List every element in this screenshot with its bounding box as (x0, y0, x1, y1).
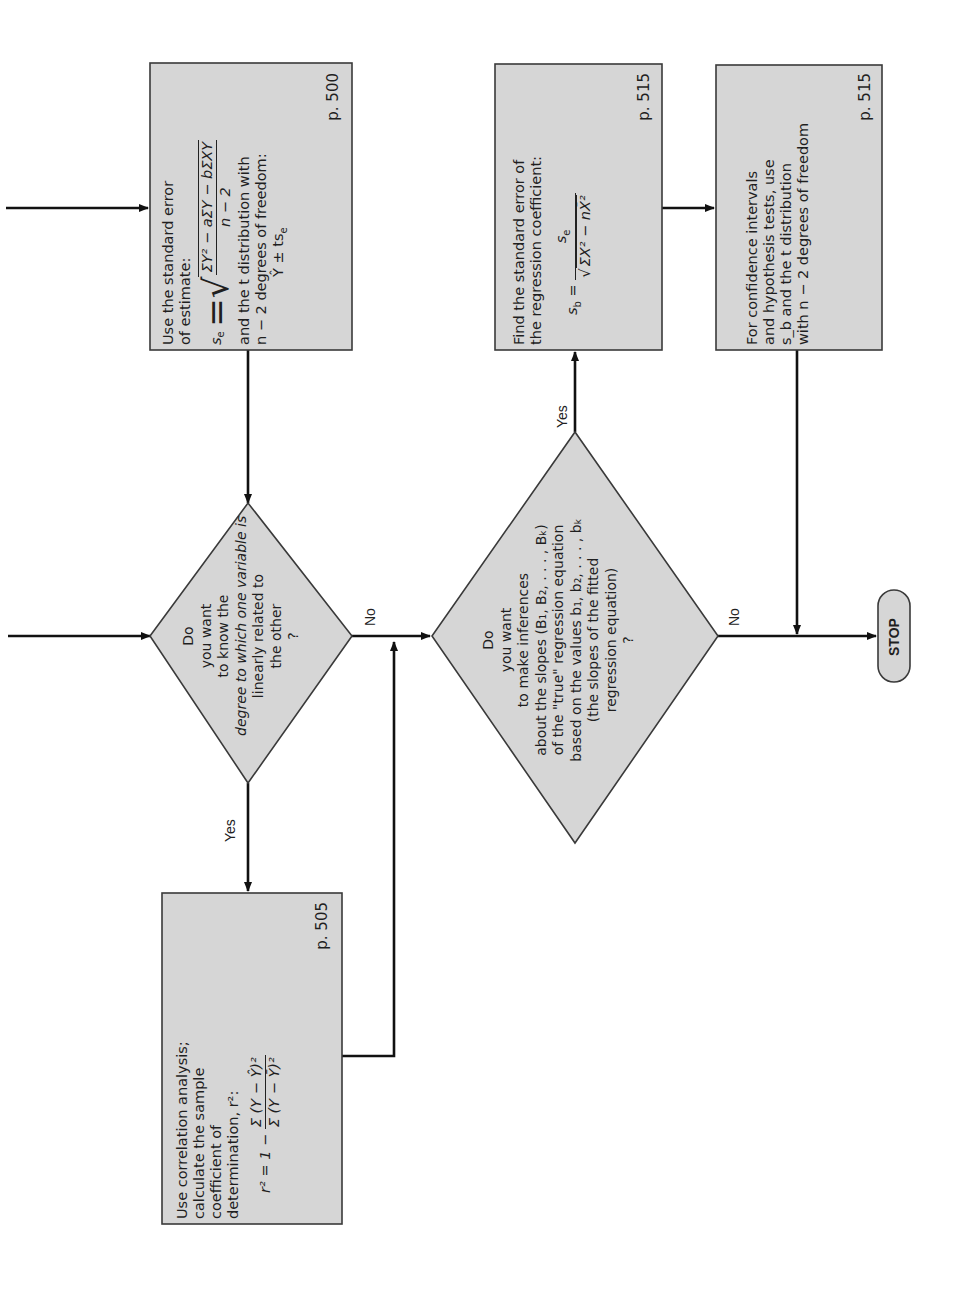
std-error-coefficient-line1: Find the standard error of (511, 69, 528, 345)
std-error-coefficient-page-ref: p. 515 (636, 73, 653, 121)
confidence-intervals-page-ref: p. 515 (857, 73, 874, 121)
std-error-estimate-line2: of estimate: (177, 69, 194, 345)
confidence-intervals-text: For confidence intervals and hypothesis … (726, 69, 876, 345)
decision-slopes-text: Do you want to make inferences about the… (480, 500, 670, 780)
edge-label-decision-1-no: No (362, 608, 378, 626)
edge-label-decision-1-yes: Yes (222, 819, 238, 842)
confidence-intervals-line3: s_b and the t distribution (778, 69, 795, 345)
confidence-intervals-line4: with n − 2 degrees of freedom (795, 69, 812, 345)
std-error-estimate-line3: and the t distribution with (236, 69, 253, 345)
stop-label: STOP (886, 618, 902, 656)
edge-correlation-return (342, 642, 394, 1056)
std-error-coefficient-formula: sb = se √ΣX² − nX̄² (553, 69, 594, 345)
std-error-estimate-page-ref: p. 500 (325, 73, 342, 121)
correlation-analysis-line2: calculate the sample (191, 898, 208, 1219)
std-error-estimate-line5: Ŷ ± tse (270, 69, 292, 345)
correlation-analysis-line4: determination, r²: (225, 898, 242, 1219)
std-error-estimate-text: Use the standard error of estimate: se =… (160, 69, 346, 345)
std-error-estimate-line1: Use the standard error (160, 69, 177, 345)
edge-label-decision-2-yes: Yes (554, 405, 570, 428)
correlation-analysis-text: Use correlation analysis; calculate the … (172, 898, 337, 1219)
std-error-estimate-formula: se =√ ΣY² − aΣY − bΣXY n − 2 (198, 69, 234, 345)
confidence-intervals-line1: For confidence intervals (744, 69, 761, 345)
correlation-analysis-formula: r² = 1 − Σ (Y − Ŷ)² Σ (Y − Ȳ)² (248, 898, 283, 1219)
correlation-analysis-page-ref: p. 505 (314, 902, 331, 950)
std-error-coefficient-text: Find the standard error of the regressio… (505, 69, 655, 345)
decision-correlation-text: Do you want to know the degree to which … (180, 536, 320, 736)
confidence-intervals-line2: and hypothesis tests, use (761, 69, 778, 345)
std-error-estimate-line4: n − 2 degrees of freedom: (253, 69, 270, 345)
correlation-analysis-line1: Use correlation analysis; (174, 898, 191, 1219)
edge-label-decision-2-no: No (726, 608, 742, 626)
correlation-analysis-line3: coefficient of (208, 898, 225, 1219)
std-error-coefficient-line2: the regression coefficient: (528, 69, 545, 345)
